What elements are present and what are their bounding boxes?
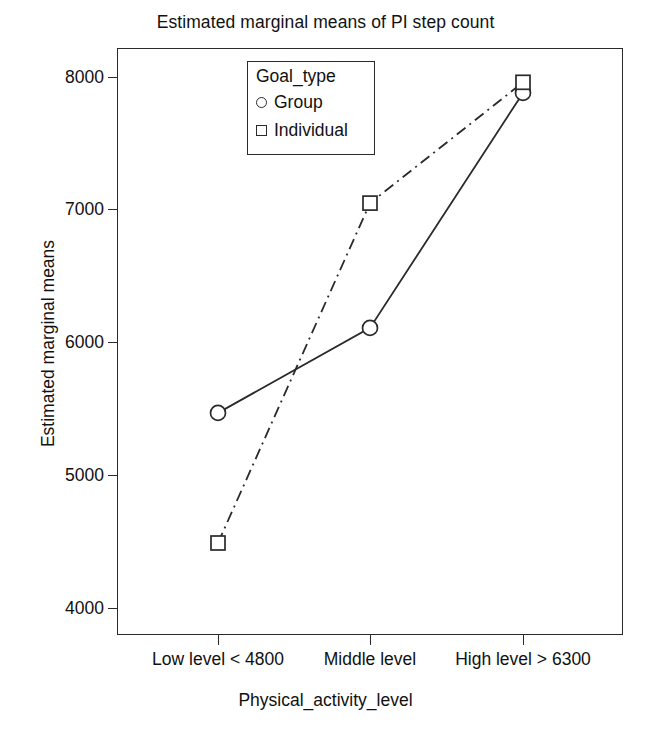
x-tick-label-high: High level > 6300 [455, 649, 591, 670]
data-point-individual-middle [363, 196, 377, 210]
data-point-individual-low [211, 536, 225, 550]
square-marker-icon [256, 125, 267, 136]
data-point-individual-high [516, 75, 530, 89]
x-tick-label-middle: Middle level [324, 649, 416, 670]
y-tick-mark-7000 [108, 209, 117, 210]
data-point-group-middle [363, 320, 378, 335]
y-tick-label-5000: 5000 [65, 465, 104, 486]
x-tick-mark-high [523, 635, 524, 645]
x-axis-title: Physical_activity_level [0, 690, 651, 711]
y-tick-label-8000: 8000 [65, 67, 104, 88]
y-tick-mark-8000 [108, 77, 117, 78]
legend-label-individual: Individual [274, 122, 348, 140]
legend-entry-group: Group [256, 94, 323, 112]
x-tick-mark-low [218, 635, 219, 645]
x-tick-mark-middle [370, 635, 371, 645]
y-tick-label-7000: 7000 [65, 199, 104, 220]
legend-label-group: Group [274, 94, 323, 112]
y-tick-mark-6000 [108, 342, 117, 343]
y-axis-tick-labels: 8000 7000 6000 5000 4000 [0, 0, 104, 733]
y-tick-label-4000: 4000 [65, 598, 104, 619]
y-tick-mark-5000 [108, 475, 117, 476]
y-tick-label-6000: 6000 [65, 332, 104, 353]
legend-title: Goal_type [256, 66, 336, 87]
x-tick-label-low: Low level < 4800 [152, 649, 284, 670]
chart-figure: Estimated marginal means of PI step coun… [0, 0, 651, 733]
legend: Goal_type Group Individual [247, 61, 375, 155]
legend-entry-individual: Individual [256, 122, 348, 140]
y-tick-mark-4000 [108, 608, 117, 609]
circle-marker-icon [256, 97, 267, 108]
data-point-group-low [211, 405, 226, 420]
